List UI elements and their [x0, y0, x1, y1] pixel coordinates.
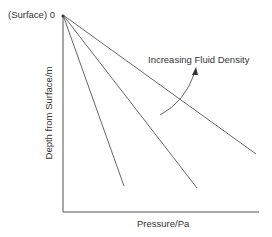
- pressure-line-middle: [63, 15, 197, 188]
- diagram-canvas: [0, 0, 272, 237]
- pressure-line-shallow: [63, 15, 256, 154]
- annotation-label: Increasing Fluid Density: [148, 54, 249, 65]
- arrow-head-icon: [192, 67, 198, 75]
- density-arrow: [160, 72, 195, 115]
- pressure-line-steep: [63, 15, 124, 186]
- origin-point: [62, 15, 65, 18]
- y-axis-label: Depth from Surface/m: [43, 67, 54, 160]
- x-axis-label: Pressure/Pa: [137, 218, 189, 229]
- origin-label: (Surface) 0: [8, 9, 55, 20]
